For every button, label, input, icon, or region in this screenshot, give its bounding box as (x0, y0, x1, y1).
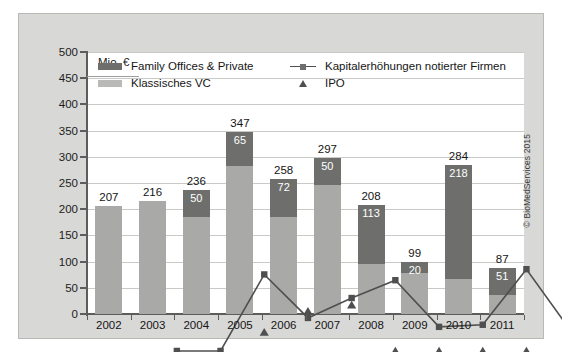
legend-row-2: Klassisches VC IPO (98, 77, 498, 94)
x-axis-tick-label-2003: 2003 (131, 319, 175, 331)
y-axis-tick-label: 200 (59, 203, 78, 215)
ipo-marker[interactable] (478, 347, 487, 352)
x-tick (131, 315, 132, 320)
x-axis-tick-label-2006: 2006 (262, 319, 306, 331)
ipo-marker[interactable] (434, 347, 443, 352)
copyright-notice: © BioMedServices 2015 (522, 134, 532, 227)
y-axis-tick-label: 0 (72, 308, 78, 320)
y-axis-tick-label: 100 (59, 256, 78, 268)
legend-item-klassisches-vc: Klassisches VC (98, 77, 211, 89)
line-square-marker-icon (290, 62, 316, 71)
bar-segment-klassisches-vc[interactable] (95, 206, 122, 314)
x-tick (306, 315, 307, 320)
ipo-marker[interactable] (347, 301, 356, 309)
kapitalerhoehungen-marker[interactable] (261, 271, 267, 277)
legend-item-ipo: IPO (290, 77, 345, 89)
y-axis-tick-label: 350 (59, 125, 78, 137)
x-axis-tick-label-2002: 2002 (87, 319, 131, 331)
x-tick (218, 315, 219, 320)
y-axis-tick-label: 250 (59, 177, 78, 189)
x-tick (437, 315, 438, 320)
legend-row-1: Family Offices & Private Kapitalerhöhung… (98, 60, 498, 77)
ipo-marker[interactable] (303, 307, 312, 315)
y-tick-200 (80, 208, 87, 210)
x-axis-tick-label-2010: 2010 (436, 319, 480, 331)
y-tick-100 (80, 261, 87, 263)
x-axis-tick-label-2009: 2009 (393, 319, 437, 331)
series-overlay (155, 90, 562, 352)
kapitalerhoehungen-marker[interactable] (523, 266, 529, 272)
y-axis-tick-label: 300 (59, 151, 78, 163)
ipo-marker[interactable] (391, 347, 400, 352)
bar-total-label: 207 (99, 191, 118, 203)
kapitalerhoehungen-marker[interactable] (392, 277, 398, 283)
x-axis-tick-label-2011: 2011 (480, 319, 524, 331)
y-tick-0 (80, 313, 87, 315)
y-tick-150 (80, 234, 87, 236)
y-axis-tick-label: 500 (59, 46, 78, 58)
kapitalerhoehungen-markers (174, 266, 562, 352)
x-tick (262, 315, 263, 320)
chart-legend: Family Offices & Private Kapitalerhöhung… (98, 60, 498, 94)
x-axis-tick-label-2007: 2007 (305, 319, 349, 331)
bar-light-icon (98, 80, 122, 87)
x-tick (524, 315, 525, 320)
triangle-marker-icon (290, 79, 316, 88)
chart-panel: 2072165023665347722585029711320820992182… (18, 13, 544, 339)
kapitalerhoehungen-line (177, 269, 562, 351)
y-axis-tick-label: 400 (59, 98, 78, 110)
legend-item-kapitalerhoehungen: Kapitalerhöhungen notierter Firmen (290, 60, 506, 72)
x-tick (480, 315, 481, 320)
legend-item-family-offices: Family Offices & Private (98, 60, 254, 72)
y-tick-250 (80, 182, 87, 184)
y-tick-400 (80, 103, 87, 105)
y-axis-tick-label: 50 (65, 282, 78, 294)
x-axis-tick-label-2005: 2005 (218, 319, 262, 331)
ipo-marker[interactable] (522, 347, 531, 352)
x-tick (174, 315, 175, 320)
legend-label: Family Offices & Private (131, 60, 254, 72)
bar-dark-icon (98, 63, 122, 70)
y-axis-tick-label: 150 (59, 229, 78, 241)
x-axis-tick-label-2008: 2008 (349, 319, 393, 331)
legend-label: Klassisches VC (131, 77, 211, 89)
x-tick (349, 315, 350, 320)
y-axis-tick-label: 450 (59, 72, 78, 84)
chart-screenshot: 2072165023665347722585029711320820992182… (0, 0, 562, 352)
y-tick-350 (80, 130, 87, 132)
legend-label: IPO (325, 77, 345, 89)
legend-label: Kapitalerhöhungen notierter Firmen (325, 60, 506, 72)
kapitalerhoehungen-marker[interactable] (348, 295, 354, 301)
x-tick (87, 315, 88, 320)
y-tick-300 (80, 156, 87, 158)
y-tick-50 (80, 287, 87, 289)
x-tick (393, 315, 394, 320)
y-tick-500 (80, 51, 87, 53)
y-tick-450 (80, 77, 87, 79)
x-axis-tick-label-2004: 2004 (174, 319, 218, 331)
